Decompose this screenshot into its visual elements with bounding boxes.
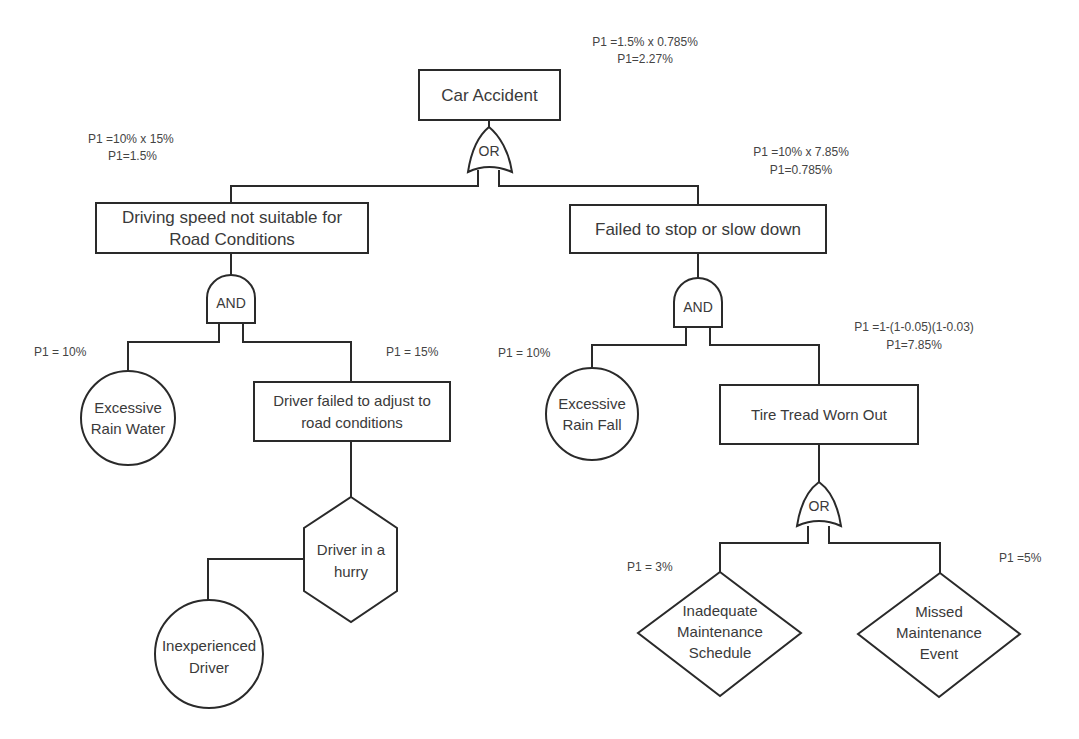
svg-text:Excessive: Excessive bbox=[94, 399, 162, 416]
svg-text:P1 =1-(1-0.05)(1-0.03): P1 =1-(1-0.05)(1-0.03) bbox=[854, 320, 974, 334]
svg-text:Inexperienced: Inexperienced bbox=[162, 637, 256, 654]
svg-text:Event: Event bbox=[920, 645, 959, 662]
svg-text:Driver in a: Driver in a bbox=[317, 541, 386, 558]
left-branch-probability: P1 =10% x 15% P1=1.5% bbox=[88, 132, 174, 163]
svg-text:P1=0.785%: P1=0.785% bbox=[770, 163, 833, 177]
svg-text:Road Conditions: Road Conditions bbox=[169, 230, 295, 249]
left-branch-event: Driving speed not suitable for Road Cond… bbox=[96, 203, 368, 253]
right-branch-probability: P1 =10% x 7.85% P1=0.785% bbox=[753, 145, 849, 177]
svg-text:P1 =1.5% x 0.785%: P1 =1.5% x 0.785% bbox=[592, 35, 698, 49]
and-gate-icon: AND bbox=[674, 278, 722, 327]
basic-event-inexperienced-driver: Inexperienced Driver bbox=[155, 600, 263, 708]
svg-text:OR: OR bbox=[809, 498, 830, 514]
svg-text:road conditions: road conditions bbox=[301, 414, 403, 431]
or-gate-icon: OR bbox=[468, 127, 512, 172]
connectors bbox=[128, 120, 940, 600]
svg-text:P1=1.5%: P1=1.5% bbox=[108, 149, 157, 163]
svg-text:Maintenance: Maintenance bbox=[896, 624, 982, 641]
svg-text:Tire Tread Worn Out: Tire Tread Worn Out bbox=[751, 406, 888, 423]
top-event-car-accident: Car Accident bbox=[419, 70, 560, 120]
rain-water-probability: P1 = 10% bbox=[34, 345, 87, 359]
condition-driver-in-a-hurry: Driver in a hurry bbox=[304, 497, 397, 622]
svg-text:P1 =10% x 15%: P1 =10% x 15% bbox=[88, 132, 174, 146]
svg-text:AND: AND bbox=[683, 299, 713, 315]
svg-text:Driver failed to adjust to: Driver failed to adjust to bbox=[273, 392, 431, 409]
basic-event-excessive-rain-fall: Excessive Rain Fall bbox=[546, 368, 638, 460]
svg-text:Rain Fall: Rain Fall bbox=[562, 416, 621, 433]
missed-maintenance-probability: P1 =5% bbox=[999, 551, 1042, 565]
svg-text:Failed to stop or slow down: Failed to stop or slow down bbox=[595, 220, 801, 239]
svg-text:hurry: hurry bbox=[334, 563, 369, 580]
inadequate-maintenance-probability: P1 = 3% bbox=[627, 560, 673, 574]
or-gate-icon: OR bbox=[797, 482, 841, 526]
svg-text:OR: OR bbox=[479, 143, 500, 159]
top-event-label: Car Accident bbox=[441, 86, 538, 105]
top-event-probability: P1 =1.5% x 0.785% P1=2.27% bbox=[592, 35, 698, 66]
svg-text:P1 =10% x 7.85%: P1 =10% x 7.85% bbox=[753, 145, 849, 159]
undeveloped-event-inadequate-maintenance-schedule: Inadequate Maintenance Schedule bbox=[638, 572, 801, 696]
intermediate-event-tire-tread-worn-out: Tire Tread Worn Out bbox=[720, 385, 918, 444]
basic-event-excessive-rain-water: Excessive Rain Water bbox=[81, 371, 175, 465]
svg-text:Driving speed not suitable for: Driving speed not suitable for bbox=[122, 208, 343, 227]
svg-text:P1=7.85%: P1=7.85% bbox=[886, 338, 942, 352]
driver-failed-probability: P1 = 15% bbox=[386, 345, 439, 359]
svg-text:Rain Water: Rain Water bbox=[91, 420, 165, 437]
undeveloped-event-missed-maintenance-event: Missed Maintenance Event bbox=[858, 573, 1020, 697]
rain-fall-probability: P1 = 10% bbox=[498, 346, 551, 360]
svg-text:Missed: Missed bbox=[915, 603, 963, 620]
svg-text:Schedule: Schedule bbox=[689, 644, 752, 661]
and-gate-icon: AND bbox=[207, 275, 255, 323]
intermediate-event-driver-failed-to-adjust: Driver failed to adjust to road conditio… bbox=[254, 382, 450, 441]
svg-text:Inadequate: Inadequate bbox=[682, 602, 757, 619]
svg-text:Excessive: Excessive bbox=[558, 395, 626, 412]
fault-tree-diagram: Car Accident P1 =1.5% x 0.785% P1=2.27% … bbox=[0, 0, 1079, 739]
right-branch-event: Failed to stop or slow down bbox=[570, 205, 826, 253]
tire-tread-probability: P1 =1-(1-0.05)(1-0.03) P1=7.85% bbox=[854, 320, 974, 352]
svg-text:Driver: Driver bbox=[189, 659, 229, 676]
svg-text:AND: AND bbox=[216, 295, 246, 311]
svg-text:Maintenance: Maintenance bbox=[677, 623, 763, 640]
svg-text:P1=2.27%: P1=2.27% bbox=[617, 52, 673, 66]
